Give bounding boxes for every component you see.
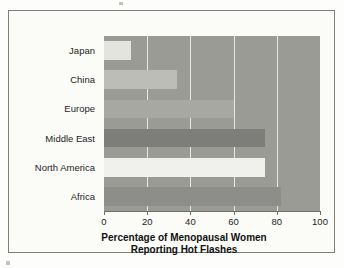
x-tick-0 xyxy=(104,211,105,215)
x-tick-40 xyxy=(190,211,191,215)
bar-row xyxy=(104,182,320,211)
x-tick-label-60: 60 xyxy=(228,216,239,227)
x-tick-20 xyxy=(147,211,148,215)
category-label-middle-east: Middle East xyxy=(17,124,100,153)
x-tick-label-0: 0 xyxy=(101,216,106,227)
bar-row xyxy=(104,36,320,65)
category-label-japan: Japan xyxy=(17,36,100,65)
bar-row xyxy=(104,65,320,94)
scan-artifact-bottom-left xyxy=(6,261,10,265)
bar-africa xyxy=(104,187,281,206)
category-axis-labels: Japan China Europe Middle East North Ame… xyxy=(17,36,100,211)
category-label-africa: Africa xyxy=(17,182,100,211)
bar-europe xyxy=(104,100,234,119)
bar-middle-east xyxy=(104,129,265,148)
x-tick-80 xyxy=(277,211,278,215)
bar-row xyxy=(104,124,320,153)
bar-row xyxy=(104,153,320,182)
x-axis-line xyxy=(104,211,320,212)
x-tick-label-100: 100 xyxy=(312,216,328,227)
x-tick-label-80: 80 xyxy=(272,216,283,227)
scan-artifact-top xyxy=(119,2,123,5)
bar-china xyxy=(104,70,177,89)
bar-japan xyxy=(104,41,131,60)
bar-row xyxy=(104,94,320,123)
plot-area xyxy=(104,36,320,211)
bar-north-america xyxy=(104,158,265,177)
x-tick-label-40: 40 xyxy=(185,216,196,227)
category-label-north-america: North America xyxy=(17,153,100,182)
category-label-china: China xyxy=(17,65,100,94)
x-tick-60 xyxy=(234,211,235,215)
category-label-europe: Europe xyxy=(17,94,100,123)
x-tick-100 xyxy=(320,211,321,215)
bar-rows xyxy=(104,36,320,211)
x-axis-title: Percentage of Menopausal Women Reporting… xyxy=(49,232,319,256)
chart-figure: Japan China Europe Middle East North Ame… xyxy=(0,0,344,268)
x-axis-title-line1: Percentage of Menopausal Women xyxy=(49,232,319,244)
x-tick-label-20: 20 xyxy=(142,216,153,227)
chart-card: Japan China Europe Middle East North Ame… xyxy=(8,10,335,253)
x-axis-title-line2: Reporting Hot Flashes xyxy=(49,244,319,256)
